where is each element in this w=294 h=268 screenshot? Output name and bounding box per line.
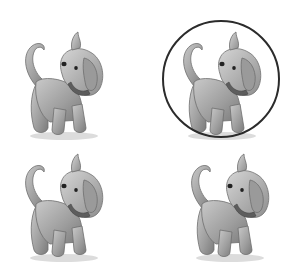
puppy-top-right[interactable] bbox=[172, 24, 272, 142]
puppy-illustration bbox=[14, 146, 114, 264]
puppy-illustration bbox=[14, 24, 114, 142]
puppy-bottom-left[interactable] bbox=[14, 146, 114, 264]
puppy-illustration bbox=[172, 24, 272, 142]
puppy-top-left[interactable] bbox=[14, 24, 114, 142]
puppy-illustration bbox=[180, 146, 280, 264]
puppy-bottom-right[interactable] bbox=[180, 146, 280, 264]
